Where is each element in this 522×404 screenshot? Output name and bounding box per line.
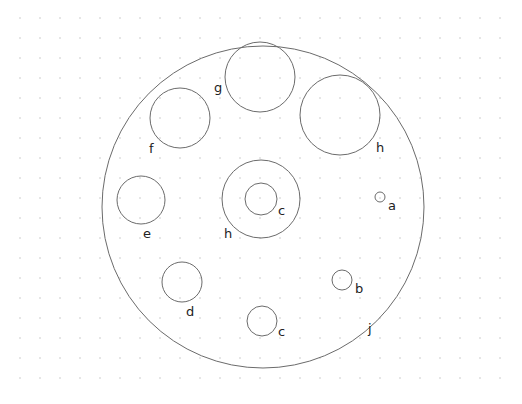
- grid-dot: [320, 38, 321, 39]
- grid-dot: [40, 198, 41, 199]
- grid-dot: [400, 358, 401, 359]
- grid-dot: [300, 338, 301, 339]
- grid-dot: [100, 278, 101, 279]
- grid-dot: [260, 218, 261, 219]
- grid-dot: [260, 358, 261, 359]
- grid-dot: [200, 158, 201, 159]
- grid-dot: [480, 278, 481, 279]
- grid-dot: [480, 138, 481, 139]
- grid-dot: [260, 98, 261, 99]
- grid-dot: [460, 358, 461, 359]
- grid-dot: [420, 338, 421, 339]
- grid-dot: [300, 298, 301, 299]
- grid-dot: [20, 58, 21, 59]
- grid-dot: [500, 218, 501, 219]
- grid-dot: [400, 218, 401, 219]
- grid-dot: [500, 338, 501, 339]
- circle-h-top[interactable]: [300, 75, 380, 155]
- label-h-center: h: [224, 226, 232, 241]
- grid-dot: [60, 338, 61, 339]
- grid-dot: [120, 318, 121, 319]
- circle-c-center[interactable]: [245, 183, 277, 215]
- grid-dot: [480, 118, 481, 119]
- grid-dot: [100, 18, 101, 19]
- grid-dot: [200, 138, 201, 139]
- grid-dot: [440, 318, 441, 319]
- grid-dot: [340, 58, 341, 59]
- grid-dot: [500, 78, 501, 79]
- grid-dot: [40, 218, 41, 219]
- circle-e[interactable]: [117, 176, 165, 224]
- grid-dot: [320, 118, 321, 119]
- grid-dot: [440, 18, 441, 19]
- grid-dot: [40, 38, 41, 39]
- grid-dot: [140, 378, 141, 379]
- grid-dot: [100, 138, 101, 139]
- grid-dot: [360, 218, 361, 219]
- grid-dot: [440, 58, 441, 59]
- grid-dot: [220, 58, 221, 59]
- grid-dot: [220, 378, 221, 379]
- grid-dot: [100, 358, 101, 359]
- grid-dot: [420, 78, 421, 79]
- grid-dot: [320, 378, 321, 379]
- grid-dot: [20, 218, 21, 219]
- grid-dot: [260, 318, 261, 319]
- circle-j[interactable]: [102, 46, 424, 368]
- grid-dot: [500, 198, 501, 199]
- circle-a[interactable]: [375, 192, 385, 202]
- grid-dot: [480, 38, 481, 39]
- grid-dot: [340, 38, 341, 39]
- grid-dot: [140, 278, 141, 279]
- grid-dot: [400, 158, 401, 159]
- grid-dot: [380, 38, 381, 39]
- grid-dot: [100, 298, 101, 299]
- grid-dot: [140, 158, 141, 159]
- grid-dot: [400, 98, 401, 99]
- grid-dot: [120, 258, 121, 259]
- grid-dot: [360, 138, 361, 139]
- grid-dot: [60, 158, 61, 159]
- grid-dot: [140, 218, 141, 219]
- label-g: g: [214, 80, 222, 95]
- grid-dot: [460, 18, 461, 19]
- grid-dot: [200, 198, 201, 199]
- circle-c-bottom[interactable]: [247, 306, 277, 336]
- grid-dot: [480, 218, 481, 219]
- circle-h-center[interactable]: [222, 160, 300, 238]
- grid-dot: [480, 258, 481, 259]
- grid-dot: [260, 258, 261, 259]
- grid-dot: [420, 278, 421, 279]
- grid-dot: [120, 138, 121, 139]
- grid-dot: [340, 118, 341, 119]
- grid-dot: [340, 198, 341, 199]
- grid-dot: [240, 98, 241, 99]
- grid-dot: [340, 318, 341, 319]
- grid-dot: [180, 278, 181, 279]
- grid-dot: [140, 138, 141, 139]
- grid-dot: [480, 58, 481, 59]
- grid-dot: [440, 78, 441, 79]
- grid-dot: [40, 318, 41, 319]
- circle-b[interactable]: [332, 270, 352, 290]
- grid-dot: [240, 378, 241, 379]
- grid-dot: [100, 118, 101, 119]
- grid-dot: [480, 158, 481, 159]
- grid-dot: [420, 258, 421, 259]
- grid-dot: [440, 138, 441, 139]
- grid-dot: [220, 358, 221, 359]
- circle-g[interactable]: [225, 42, 295, 112]
- grid-dot: [40, 338, 41, 339]
- grid-dot: [60, 178, 61, 179]
- grid-dot: [360, 298, 361, 299]
- grid-dot: [320, 78, 321, 79]
- grid-dot: [180, 378, 181, 379]
- grid-dot: [60, 278, 61, 279]
- grid-dot: [340, 218, 341, 219]
- grid-dot: [500, 258, 501, 259]
- grid-dot: [380, 358, 381, 359]
- grid-dot: [40, 378, 41, 379]
- grid-dot: [220, 238, 221, 239]
- circle-d[interactable]: [162, 262, 202, 302]
- grid-dot: [340, 18, 341, 19]
